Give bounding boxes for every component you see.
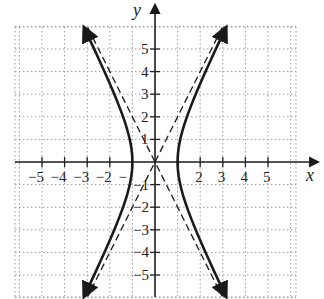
- y-tick-label: −5: [133, 267, 149, 283]
- x-tick-label: 2: [195, 169, 203, 185]
- y-tick-label: −2: [133, 199, 149, 215]
- x-tick-label: 4: [240, 169, 248, 185]
- y-axis-label: y: [131, 0, 141, 20]
- y-tick-label: 3: [141, 86, 149, 102]
- y-tick-label: −1: [133, 177, 149, 193]
- y-tick-label: 2: [141, 109, 149, 125]
- x-axis-label: x: [305, 165, 314, 185]
- x-tick-label: −4: [51, 169, 67, 185]
- x-tick-label: −3: [73, 169, 89, 185]
- x-tick-label: −5: [28, 169, 44, 185]
- hyperbola-graph: −5−4−3−2−234554321−1−2−3−4−5 x y: [0, 0, 324, 299]
- x-tick-label: 3: [218, 169, 226, 185]
- x-tick-label: 5: [263, 169, 271, 185]
- y-tick-label: 4: [141, 64, 149, 80]
- y-tick-label: 1: [141, 131, 149, 147]
- y-tick-label: 5: [141, 41, 149, 57]
- y-tick-label: −3: [133, 222, 149, 238]
- x-tick-label: −2: [96, 169, 112, 185]
- x-tick-label: −: [118, 169, 126, 185]
- y-tick-label: −4: [133, 244, 149, 260]
